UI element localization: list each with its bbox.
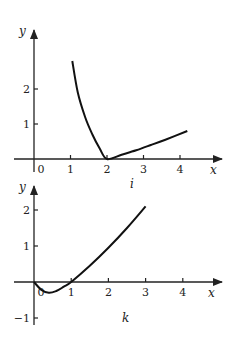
x-axis-label: x [210,163,217,177]
chart-i: y x 01234 12 i [14,24,222,191]
x-tick-label: 2 [105,286,112,299]
x-tick-label: 1 [67,163,74,176]
x-tick-label: 4 [177,163,184,176]
y-tick-label: 2 [23,204,30,217]
y-axis-label: y [18,24,26,38]
y-tick-label: 1 [23,240,30,253]
y-tick-label: −1 [14,312,30,325]
y-ticks: 12 [23,83,38,131]
chart-k: y x 01234 −112 k [14,180,222,325]
y-tick-label: 2 [23,83,30,96]
curve-k [34,206,146,292]
x-tick-label: 3 [140,163,147,176]
curve-i [72,61,187,159]
x-tick-label: 0 [38,163,45,176]
x-tick-label: 4 [179,286,186,299]
y-tick-label: 1 [23,118,30,131]
x-tick-label: 3 [142,286,149,299]
chart-label-k: k [122,311,129,325]
x-tick-label: 1 [68,286,75,299]
chart-label-i: i [130,177,134,191]
figure: y x 01234 12 i y x 01234 −112 k [0,0,235,344]
y-axis-label: y [18,180,26,194]
x-axis-label: x [208,286,215,300]
x-tick-label: 2 [104,163,111,176]
